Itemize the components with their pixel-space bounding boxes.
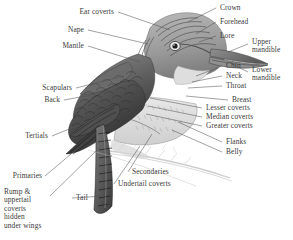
label-nape: Nape [0, 26, 84, 34]
label-flanks: Flanks [226, 138, 246, 146]
leader-breast [186, 96, 228, 100]
label-chin: Chin [226, 62, 241, 70]
leader-belly [172, 130, 222, 152]
leader-mantle [88, 46, 140, 62]
label-upper-mandible: Upper mandible [252, 38, 293, 55]
label-back: Back [0, 96, 60, 104]
label-crown: Crown [220, 4, 241, 12]
label-ear-coverts: Ear coverts [0, 8, 114, 16]
label-secondaries: Secondaries [132, 168, 169, 176]
label-belly: Belly [226, 148, 243, 156]
label-undertail-coverts: Undertail coverts [118, 180, 171, 188]
label-rump-uppertail-coverts: Rump & uppertail coverts hidden under wi… [4, 188, 64, 230]
label-throat: Throat [226, 82, 246, 90]
label-mantle: Mantle [0, 42, 84, 50]
label-lower-mandible: Lower mandible [252, 66, 293, 83]
tail [94, 124, 113, 213]
label-lore: Lore [220, 32, 234, 40]
label-scapulars: Scapulars [0, 84, 72, 92]
label-forehead: Forehead [220, 18, 248, 26]
label-tail: Tail [76, 194, 88, 202]
bird-anatomy-diagram: Ear coverts Nape Mantle Scapulars Back T… [0, 0, 293, 240]
label-neck: Neck [226, 72, 242, 80]
label-greater-coverts: Greater coverts [206, 122, 253, 130]
leader-upper-mandible [228, 44, 248, 52]
label-tertials: Tertials [0, 132, 48, 140]
label-primaries: Primaries [0, 172, 42, 180]
leader-throat [188, 86, 222, 88]
leader-nape [88, 30, 148, 44]
eye [170, 41, 180, 50]
